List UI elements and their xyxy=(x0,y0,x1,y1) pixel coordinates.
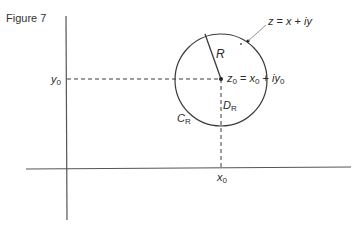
interior-dot xyxy=(240,43,242,45)
label-x0: x0 xyxy=(217,172,227,185)
label-d-r: DR xyxy=(223,100,237,113)
label-y0: y0 xyxy=(51,74,61,87)
label-c-r: CR xyxy=(177,113,191,126)
label-z0-equation: z0 = x0 + iy0 xyxy=(227,73,284,86)
center-point-z0 xyxy=(219,77,223,81)
label-r: R xyxy=(216,48,225,60)
label-z-equation: z = x + iy xyxy=(268,16,312,27)
vertical-axis xyxy=(66,16,67,220)
horizontal-axis xyxy=(26,167,351,169)
z-leader-line xyxy=(248,25,266,41)
